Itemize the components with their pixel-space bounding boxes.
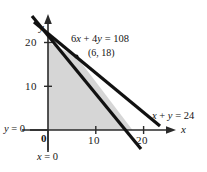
eq2-plus: + xyxy=(157,110,168,121)
eq1-equals: = xyxy=(102,33,113,44)
vertex-marker xyxy=(75,55,79,59)
cons-y-eq: = xyxy=(9,123,20,134)
eq1-rhs: 108 xyxy=(113,33,129,44)
y-tick-label-10: 10 xyxy=(25,81,37,92)
eq2-equals: = xyxy=(173,110,184,121)
line-label-6x-4y-108: 6x + 4y = 108 xyxy=(71,34,129,45)
x-axis-label: x xyxy=(181,124,186,135)
x-tick-label-20: 20 xyxy=(136,135,148,146)
cons-x-eq: = xyxy=(42,151,53,162)
x-axis-arrowhead xyxy=(166,126,176,134)
origin-label: 0 xyxy=(41,133,47,144)
cons-x-val: 0 xyxy=(53,151,58,162)
chart-figure: y x 20 10 10 20 0 6x + 4y = 108 (6, 18) … xyxy=(0,0,207,172)
eq1-plus: + xyxy=(81,33,92,44)
eq2-rhs: 24 xyxy=(184,110,195,121)
y-tick-label-20: 20 xyxy=(25,37,37,48)
constraint-label-x-equals-0: x = 0 xyxy=(37,152,58,163)
y-axis-label: y xyxy=(39,22,44,33)
line-label-x-y-24: x + y = 24 xyxy=(152,111,194,122)
x-tick-label-10: 10 xyxy=(88,135,100,146)
constraint-label-y-equals-0: y = 0 xyxy=(4,124,25,135)
vertex-point-label: (6, 18) xyxy=(88,48,115,58)
cons-y-val: 0 xyxy=(20,123,25,134)
y-axis-arrowhead xyxy=(44,14,52,24)
